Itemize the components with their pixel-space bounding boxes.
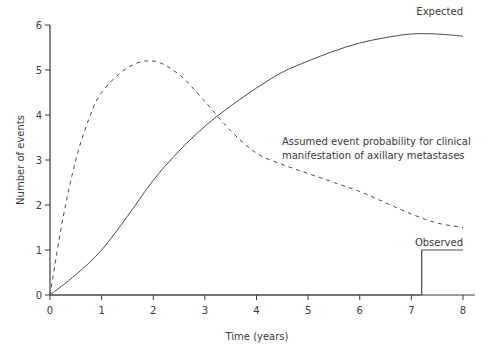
x-tick-label: 8 (460, 305, 466, 316)
observed-line (50, 250, 463, 295)
axes: 0123456780123456 (36, 20, 475, 316)
y-axis-title: Number of events (15, 115, 26, 205)
y-tick-label: 4 (36, 110, 42, 121)
x-tick-label: 6 (357, 305, 363, 316)
y-tick-label: 1 (36, 245, 42, 256)
y-tick-label: 6 (36, 20, 42, 31)
y-tick-label: 2 (36, 200, 42, 211)
x-tick-label: 7 (408, 305, 414, 316)
expected-label: Expected (416, 6, 463, 17)
x-tick-label: 4 (253, 305, 259, 316)
labels-group: Time (years) Number of events Expected A… (15, 6, 471, 342)
x-tick-label: 0 (47, 305, 53, 316)
x-tick-label: 3 (202, 305, 208, 316)
series-group (50, 34, 463, 295)
x-tick-label: 2 (150, 305, 156, 316)
assumed-label-line2: manifestation of axillary metastases (282, 150, 465, 161)
x-axis-title: Time (years) (225, 331, 289, 342)
observed-label: Observed (415, 237, 463, 248)
chart: 0123456780123456 Time (years) Number of … (0, 0, 490, 356)
y-tick-label: 0 (36, 290, 42, 301)
x-tick-label: 1 (98, 305, 104, 316)
assumed-probability-line (50, 61, 463, 295)
y-tick-label: 3 (36, 155, 42, 166)
y-tick-label: 5 (36, 65, 42, 76)
expected-line (50, 34, 463, 295)
assumed-label-line1: Assumed event probability for clinical (282, 136, 471, 147)
x-tick-label: 5 (305, 305, 311, 316)
